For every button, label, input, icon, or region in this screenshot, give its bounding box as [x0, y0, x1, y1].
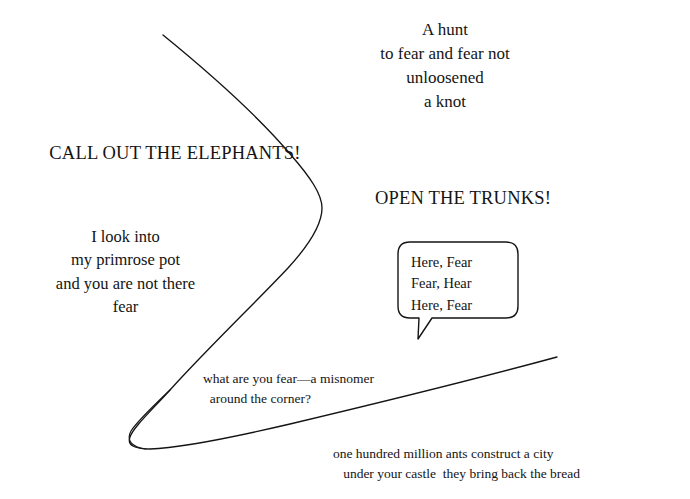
speech-bubble-text: Here, Fear Fear, Hear Here, Fear [411, 252, 472, 316]
poem-block-open-the-trunks: OPEN THE TRUNKS! [348, 186, 578, 210]
poem-block-call-out-the-elephants: CALL OUT THE ELEPHANTS! [30, 141, 320, 165]
speech-bubble: Here, Fear Fear, Hear Here, Fear [398, 242, 518, 318]
poem-block-primrose: I look into my primrose pot and you are … [18, 225, 233, 319]
poem-block-misnomer: what are you fear—a misnomer around the … [203, 369, 453, 408]
loop-return-path [129, 390, 170, 449]
poem-canvas: A hunt to fear and fear not unloosened a… [0, 0, 690, 499]
poem-block-hunt: A hunt to fear and fear not unloosened a… [327, 18, 563, 115]
poem-block-ants: one hundred million ants construct a cit… [333, 444, 683, 483]
